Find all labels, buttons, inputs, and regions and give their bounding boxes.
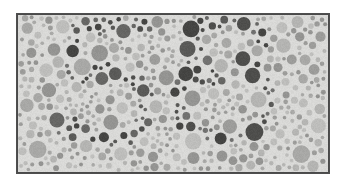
ishihara-dot-field <box>18 15 328 172</box>
plate-image <box>0 0 345 187</box>
ishihara-plate-frame <box>16 13 330 174</box>
